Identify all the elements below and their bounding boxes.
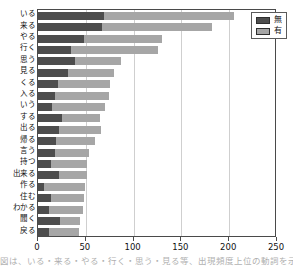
bar-row <box>38 69 114 77</box>
bar-segment-無 <box>38 46 71 54</box>
y-axis-label: やる <box>0 33 35 41</box>
bar-segment-無 <box>38 92 55 100</box>
x-axis-tick <box>37 237 38 241</box>
bar-segment-無 <box>38 160 51 168</box>
y-axis-label: 帰る <box>0 136 35 144</box>
y-axis-label: 住む <box>0 193 35 201</box>
x-axis-tick-label: 0 <box>34 242 39 253</box>
bar-row <box>38 46 158 54</box>
bar-row <box>38 171 87 179</box>
bar-segment-無 <box>38 171 59 179</box>
y-axis-label: いる <box>0 10 35 18</box>
y-axis-label: 行く <box>0 44 35 52</box>
bar-row <box>38 80 110 88</box>
bar-row <box>38 92 109 100</box>
bar-segment-有 <box>56 137 95 145</box>
figure-caption: 図は、いる・来る・やる・行く・思う・見る等、出現頻度上位の動詞を示す <box>0 257 293 267</box>
bar-segment-有 <box>68 69 115 77</box>
bar-row <box>38 183 85 191</box>
x-axis-tick <box>133 237 134 241</box>
bar-segment-有 <box>104 12 234 20</box>
x-axis-tick <box>85 237 86 241</box>
y-axis-label: 入る <box>0 90 35 98</box>
bar-segment-有 <box>55 92 109 100</box>
bar-segment-無 <box>38 217 60 225</box>
bar-segment-無 <box>38 114 62 122</box>
figure-caption-text: 図は、いる・来る・やる・行く・思う・見る等、出現頻度上位の動詞を示す <box>0 257 293 266</box>
x-axis-tick-label: 50 <box>79 242 90 253</box>
x-axis-tick-label: 250 <box>268 242 284 253</box>
bar-row <box>38 114 100 122</box>
bar-segment-有 <box>51 160 86 168</box>
y-axis-label: 言う <box>0 147 35 155</box>
bar-segment-無 <box>38 23 102 31</box>
legend: 無有 <box>251 12 287 39</box>
bar-segment-無 <box>38 12 104 20</box>
y-axis-label: する <box>0 113 35 121</box>
bar-row <box>38 57 121 65</box>
x-axis-tick <box>180 237 181 241</box>
y-axis-label: くる <box>0 79 35 87</box>
bar-segment-有 <box>52 103 105 111</box>
bar-segment-有 <box>62 114 100 122</box>
y-axis-label: 出来る <box>0 170 35 178</box>
bar-segment-無 <box>38 126 59 134</box>
bar-segment-有 <box>71 46 159 54</box>
x-axis-tick-labels: 050100150200250 <box>37 242 276 254</box>
legend-label: 有 <box>274 27 282 35</box>
bar-segment-有 <box>59 171 87 179</box>
bar-row <box>38 206 83 214</box>
bar-segment-無 <box>38 69 68 77</box>
y-axis-label: 戻る <box>0 227 35 235</box>
bar-row <box>38 217 80 225</box>
bar-row <box>38 137 95 145</box>
bar-segment-無 <box>38 80 58 88</box>
legend-label: 無 <box>274 16 282 24</box>
y-axis-label: 来る <box>0 22 35 30</box>
legend-swatch <box>256 28 270 35</box>
y-axis-labels: いる来るやる行く思う見るくる入るいうする出る帰る言う持つ出来る作る住むわかる聞く… <box>0 9 35 237</box>
x-axis-tick-label: 200 <box>220 242 236 253</box>
bar-segment-有 <box>49 228 80 236</box>
bar-segment-有 <box>59 126 101 134</box>
y-axis-label: 作る <box>0 181 35 189</box>
bar-segment-無 <box>38 57 75 65</box>
x-axis-tick <box>276 237 277 241</box>
bar-row <box>38 228 79 236</box>
legend-swatch <box>256 17 270 24</box>
y-axis-label: 見る <box>0 67 35 75</box>
bar-segment-無 <box>38 35 84 43</box>
bar-segment-無 <box>38 149 55 157</box>
plot-area <box>37 9 276 237</box>
bar-row <box>38 194 84 202</box>
bar-segment-有 <box>84 35 162 43</box>
bar-row <box>38 160 87 168</box>
bar-segment-有 <box>60 217 80 225</box>
bar-row <box>38 12 234 20</box>
bar-row <box>38 23 212 31</box>
bar-segment-有 <box>58 80 110 88</box>
bar-row <box>38 149 89 157</box>
bar-segment-無 <box>38 206 49 214</box>
bar-segment-有 <box>44 183 85 191</box>
x-axis-tick-label: 100 <box>124 242 140 253</box>
x-axis-tick <box>228 237 229 241</box>
y-axis-label: 聞く <box>0 215 35 223</box>
legend-item: 有 <box>256 27 282 35</box>
stacked-bar-chart: いる来るやる行く思う見るくる入るいうする出る帰る言う持つ出来る作る住むわかる聞く… <box>0 0 293 267</box>
y-axis-label: 思う <box>0 56 35 64</box>
bar-segment-無 <box>38 228 49 236</box>
y-axis-label: いう <box>0 101 35 109</box>
y-axis-label: 持つ <box>0 158 35 166</box>
bar-segment-有 <box>49 206 82 214</box>
y-axis-label: 出る <box>0 124 35 132</box>
bar-row <box>38 35 162 43</box>
bar-segment-有 <box>102 23 212 31</box>
x-axis-ticks <box>37 237 276 241</box>
bar-segment-無 <box>38 137 56 145</box>
y-axis-label: わかる <box>0 204 35 212</box>
bar-segment-無 <box>38 103 52 111</box>
bar-segment-有 <box>75 57 121 65</box>
bars-layer <box>38 10 275 236</box>
legend-item: 無 <box>256 16 282 24</box>
